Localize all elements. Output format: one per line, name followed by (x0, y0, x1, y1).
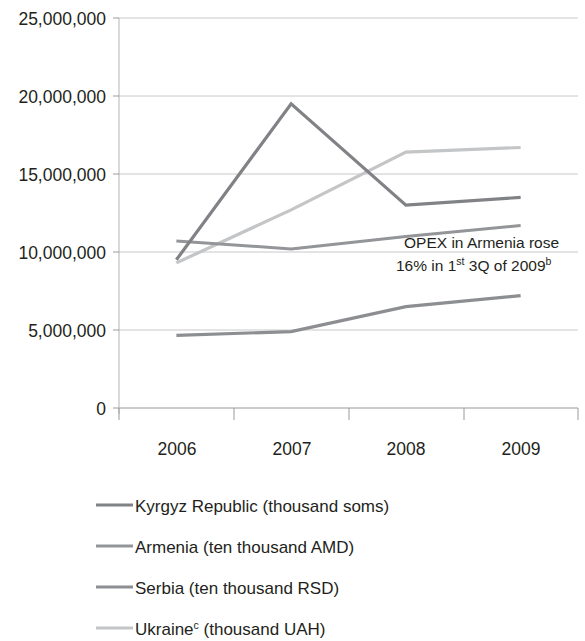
data-series-layer (176, 104, 520, 336)
chart-container: 25,000,000 20,000,000 15,000,000 10,000,… (0, 0, 585, 641)
legend-label-kyrgyz-republic: Kyrgyz Republic (thousand soms) (135, 497, 389, 516)
legend-label-tail: (thousand UAH) (199, 620, 326, 639)
y-tick-label: 20,000,000 (18, 87, 106, 107)
x-tick-label-2008: 2008 (387, 439, 426, 459)
annotation-superscript-b: b (546, 255, 552, 267)
x-axis-tick-labels: 2006 2007 2008 2009 (158, 439, 541, 459)
x-tick-label-2006: 2006 (158, 439, 197, 459)
y-axis-tick-labels: 25,000,000 20,000,000 15,000,000 10,000,… (18, 9, 106, 419)
annotation-line2-mid: 3Q of 2009 (465, 257, 546, 274)
axes (113, 18, 578, 420)
line-chart: 25,000,000 20,000,000 15,000,000 10,000,… (0, 0, 585, 641)
legend-label-armenia: Armenia (ten thousand AMD) (135, 538, 354, 557)
chart-legend: Kyrgyz Republic (thousand soms) Armenia … (96, 497, 389, 639)
legend-label-main: Ukraine (135, 620, 194, 639)
y-tick-label: 5,000,000 (28, 321, 106, 341)
y-tick-label: 15,000,000 (18, 165, 106, 185)
legend-label-ukraine: Ukrainec (thousand UAH) (135, 619, 325, 639)
series-line-serbia (176, 296, 520, 336)
legend-label-serbia: Serbia (ten thousand RSD) (135, 579, 339, 598)
legend-label-main: Kyrgyz Republic (thousand soms) (135, 497, 389, 516)
annotation-opex-armenia: OPEX in Armenia rose 16% in 1st 3Q of 20… (396, 234, 559, 274)
x-tick-label-2009: 2009 (502, 439, 541, 459)
y-tick-label: 25,000,000 (18, 9, 106, 29)
annotation-line2-pre: 16% in 1 (396, 257, 456, 274)
gridlines (119, 18, 578, 408)
y-tick-label: 0 (96, 399, 106, 419)
annotation-superscript-st: st (456, 255, 464, 267)
annotation-line-1: OPEX in Armenia rose (404, 234, 559, 251)
y-tick-label: 10,000,000 (18, 243, 106, 263)
annotation-line-2: 16% in 1st 3Q of 2009b (396, 255, 552, 274)
x-tick-label-2007: 2007 (273, 439, 312, 459)
legend-label-main: Serbia (ten thousand RSD) (135, 579, 339, 598)
legend-label-main: Armenia (ten thousand AMD) (135, 538, 354, 557)
